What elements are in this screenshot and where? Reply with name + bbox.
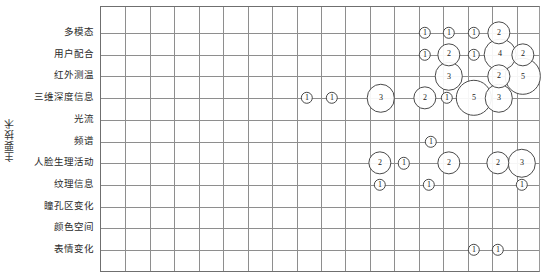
bubble-point[interactable]: 1 (516, 179, 528, 191)
bubble-value-label: 1 (330, 94, 334, 102)
bubble-value-label: 3 (379, 94, 383, 102)
y-axis-tick-1: 用户配合 (10, 49, 94, 59)
bubble-chart: 主要技术 多模态用户配合红外测温三维深度信息光流频谱人脸生理活动纹理信息瞳孔区变… (0, 0, 547, 280)
bubble-value-label: 1 (445, 94, 449, 102)
y-axis-tick-2: 红外测温 (10, 70, 94, 80)
y-axis-tick-3: 三维深度信息 (10, 92, 94, 102)
bubble-value-label: 1 (472, 29, 476, 37)
bubble-value-label: 1 (427, 181, 431, 189)
bubble-value-label: 2 (447, 159, 451, 167)
bubble-point[interactable]: 2 (437, 43, 460, 66)
bubble-value-label: 2 (496, 159, 500, 167)
bubble-point[interactable]: 1 (468, 244, 480, 256)
bubble-point[interactable]: 1 (425, 135, 437, 147)
bubble-layer: 111212142325113215312122311111 (101, 7, 539, 271)
y-axis-tick-0: 多模态 (10, 27, 94, 37)
bubble-point[interactable]: 1 (468, 27, 480, 39)
bubble-value-label: 2 (447, 50, 451, 58)
y-axis-tick-7: 纹理信息 (10, 179, 94, 189)
y-axis-tick-9: 颜色空间 (10, 222, 94, 232)
bubble-point[interactable]: 1 (374, 179, 386, 191)
bubble-point[interactable]: 1 (492, 244, 504, 256)
y-axis-tick-4: 光流 (10, 114, 94, 124)
bubble-point[interactable]: 1 (419, 27, 431, 39)
y-axis-tick-6: 人脸生理活动 (10, 157, 94, 167)
bubble-point[interactable]: 1 (423, 179, 435, 191)
y-axis-tick-labels: 多模态用户配合红外测温三维深度信息光流频谱人脸生理活动纹理信息瞳孔区变化颜色空间… (14, 0, 98, 280)
bubble-value-label: 2 (497, 72, 501, 80)
bubble-point[interactable]: 2 (486, 152, 509, 175)
y-axis-tick-5: 频谱 (10, 136, 94, 146)
bubble-point[interactable]: 3 (508, 149, 536, 177)
bubble-value-label: 3 (497, 94, 501, 102)
bubble-point[interactable]: 1 (468, 48, 480, 60)
bubble-value-label: 1 (447, 29, 451, 37)
bubble-point[interactable]: 3 (367, 84, 395, 112)
bubble-value-label: 2 (521, 50, 525, 58)
bubble-value-label: 1 (472, 246, 476, 254)
bubble-value-label: 4 (498, 50, 502, 58)
bubble-point[interactable]: 2 (437, 152, 460, 175)
bubble-value-label: 1 (423, 50, 427, 58)
bubble-point[interactable]: 2 (368, 152, 391, 175)
bubble-value-label: 3 (447, 72, 451, 80)
bubble-value-label: 5 (521, 72, 525, 80)
bubble-value-label: 5 (472, 94, 476, 102)
bubble-value-label: 1 (402, 159, 406, 167)
y-axis-tick-8: 瞳孔区变化 (10, 201, 94, 211)
bubble-value-label: 1 (472, 50, 476, 58)
bubble-value-label: 1 (520, 181, 524, 189)
bubble-point[interactable]: 3 (485, 84, 513, 112)
bubble-value-label: 2 (423, 94, 427, 102)
bubble-point[interactable]: 2 (413, 86, 436, 109)
y-axis-tick-10: 表情变化 (10, 244, 94, 254)
bubble-point[interactable]: 1 (443, 27, 455, 39)
bubble-value-label: 1 (423, 29, 427, 37)
plot-area: 111212142325113215312122311111 (100, 6, 540, 272)
bubble-point[interactable]: 1 (326, 92, 338, 104)
bubble-value-label: 2 (378, 159, 382, 167)
bubble-point[interactable]: 1 (301, 92, 313, 104)
bubble-value-label: 3 (520, 159, 524, 167)
bubble-value-label: 2 (497, 29, 501, 37)
bubble-value-label: 1 (305, 94, 309, 102)
bubble-point[interactable]: 1 (441, 92, 453, 104)
bubble-value-label: 1 (496, 246, 500, 254)
bubble-value-label: 1 (429, 137, 433, 145)
bubble-point[interactable]: 1 (398, 157, 410, 169)
bubble-value-label: 1 (378, 181, 382, 189)
bubble-point[interactable]: 1 (419, 48, 431, 60)
